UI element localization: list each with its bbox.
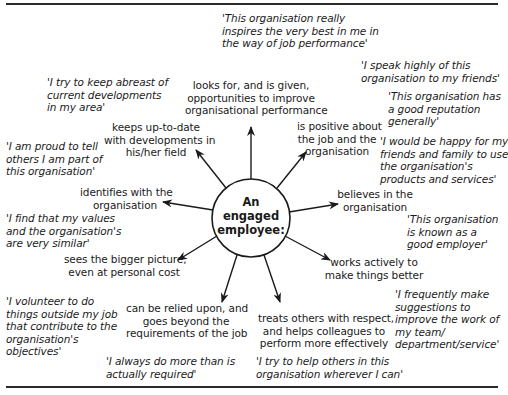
behaviour-line: make things better: [324, 269, 424, 282]
quote-do-more: 'I always do more than is actually requi…: [106, 355, 235, 380]
quote-line: the organisation's: [380, 160, 508, 173]
quote-line: and the organisation's: [6, 225, 121, 238]
arrow-relied-upon: [222, 255, 237, 302]
quote-suggestions: 'I frequently make suggestions to improv…: [395, 288, 499, 351]
behaviour-line: keeps up-to-date: [104, 121, 208, 134]
quote-line: organisation wherever I can': [256, 368, 403, 381]
center-line: engaged: [212, 209, 290, 223]
behaviour-line: looks for, and is given,: [185, 79, 317, 92]
quote-line: improve the work of: [395, 313, 499, 326]
center-label: An engaged employee:: [212, 195, 290, 237]
quote-line: products and services': [380, 173, 508, 186]
behaviour-line: treats others with respect,: [258, 312, 390, 325]
behaviour-identifies: identifies with the organisation: [80, 186, 170, 211]
quote-line: 'I volunteer to do: [6, 295, 118, 308]
quote-line: my team/: [395, 326, 499, 339]
quote-line: 'I am proud to tell: [6, 140, 102, 153]
behaviour-positive: is positive about the job and the organi…: [297, 120, 377, 158]
quote-line: are very similar': [6, 237, 121, 250]
behaviour-up-to-date: keeps up-to-date with developments in hi…: [104, 121, 208, 159]
quote-line: suggestions to: [395, 301, 499, 314]
quote-proud: 'I am proud to tell others I am part of …: [6, 140, 102, 178]
behaviour-line: perform more effectively: [258, 337, 390, 350]
arrow-treats-others: [264, 255, 280, 302]
behaviour-line: believes in the: [333, 188, 417, 201]
quote-line: a good reputation: [388, 103, 501, 116]
quote-line: inspires the very best in me in: [222, 25, 379, 38]
behaviour-bigger-picture: sees the bigger picture, even at persona…: [64, 253, 184, 278]
quote-help-others: 'I try to help others in this organisati…: [256, 355, 403, 380]
behaviour-line: goes beyond the: [126, 315, 246, 328]
behaviour-line: with developments in: [104, 134, 208, 147]
behaviour-works-actively: works actively to make things better: [324, 256, 424, 281]
behaviour-line: is positive about: [297, 120, 377, 133]
quote-happy-family: 'I would be happy for my friends and fam…: [380, 135, 508, 185]
behaviour-opportunities: looks for, and is given, opportunities t…: [185, 79, 317, 117]
quote-line: others I am part of: [6, 153, 102, 166]
quote-speak-highly: 'I speak highly of this organisation to …: [361, 59, 500, 84]
arrow-believes: [289, 204, 338, 212]
quote-line: good employer': [407, 238, 498, 251]
quote-good-employer: 'This organisation is known as a good em…: [407, 213, 498, 251]
behaviour-line: organisational performance: [185, 104, 317, 117]
behaviour-line: organisation: [297, 145, 377, 158]
arrow-identifies: [163, 202, 213, 210]
quote-line: is known as a: [407, 226, 498, 239]
behaviour-line: can be relied upon, and: [126, 302, 246, 315]
quote-line: 'I frequently make: [395, 288, 499, 301]
quote-line: things outside my job: [6, 308, 118, 321]
behaviour-line: organisation: [333, 201, 417, 214]
center-line: employee:: [212, 223, 290, 237]
quote-line: 'This organisation has: [388, 90, 501, 103]
quote-line: 'I always do more than is: [106, 355, 235, 368]
behaviour-line: even at personal cost: [64, 266, 184, 279]
quote-line: 'I try to help others in this: [256, 355, 403, 368]
quote-line: 'I speak highly of this: [361, 59, 500, 72]
quote-line: 'I would be happy for my: [380, 135, 508, 148]
quote-line: objectives': [6, 345, 118, 358]
behaviour-line: opportunities to improve: [185, 92, 317, 105]
quote-line: department/service': [395, 338, 499, 351]
behaviour-treats-others: treats others with respect, and helps co…: [258, 312, 390, 350]
behaviour-line: identifies with the: [80, 186, 170, 199]
behaviour-line: requirements of the job: [126, 327, 246, 340]
behaviour-line: and helps colleagues to: [258, 325, 390, 338]
quote-line: the way of job performance': [222, 37, 379, 50]
quote-line: 'This organisation: [407, 213, 498, 226]
quote-line: organisation to my friends': [361, 72, 500, 85]
quote-line: current developments: [47, 89, 168, 102]
quote-line: actually required': [106, 368, 235, 381]
quote-inspires: 'This organisation really inspires the v…: [222, 12, 379, 50]
quote-reputation: 'This organisation has a good reputation…: [388, 90, 501, 128]
behaviour-line: the job and the: [297, 133, 377, 146]
quote-line: friends and family to use: [380, 148, 508, 161]
center-line: An: [212, 195, 290, 209]
behaviour-line: his/her field: [104, 146, 208, 159]
quote-line: in my area': [47, 101, 168, 114]
quote-line: organisation's: [6, 333, 118, 346]
behaviour-line: sees the bigger picture,: [64, 253, 184, 266]
behaviour-believes: believes in the organisation: [333, 188, 417, 213]
quote-abreast: 'I try to keep abreast of current develo…: [47, 76, 168, 114]
quote-line: generally': [388, 115, 501, 128]
quote-line: 'I find that my values: [6, 212, 121, 225]
quote-line: that contribute to the: [6, 320, 118, 333]
behaviour-line: works actively to: [324, 256, 424, 269]
quote-line: 'I try to keep abreast of: [47, 76, 168, 89]
quote-line: this organisation': [6, 165, 102, 178]
behaviour-relied-upon: can be relied upon, and goes beyond the …: [126, 302, 246, 340]
quote-volunteer: 'I volunteer to do things outside my job…: [6, 295, 118, 358]
quote-line: 'This organisation really: [222, 12, 379, 25]
behaviour-line: organisation: [80, 199, 170, 212]
quote-values-similar: 'I find that my values and the organisat…: [6, 212, 121, 250]
